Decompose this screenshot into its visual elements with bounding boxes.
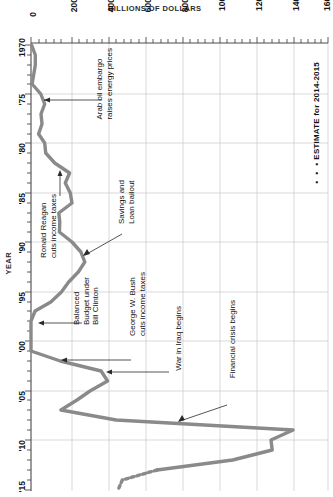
- estimate-note: ▪▪▪ESTIMATE for 2014-2015: [303, 62, 330, 197]
- annotation-balanced-budget: Balanced Budget under Bill Clinton: [72, 277, 101, 325]
- annotation-reagan-tax-cuts: Ronald Reagan cuts income taxes: [39, 194, 58, 258]
- annotation-sl-bailout: Savings and Loan bailout: [117, 180, 136, 224]
- deficit-line-estimate: [118, 470, 157, 490]
- chart-figure: BILLIONS OF DOLLARS YEAR 0 200 400 600 8…: [0, 0, 333, 497]
- annotation-iraq-war: War in Iraq begins: [174, 306, 184, 371]
- annotation-arab-oil-embargo: Arab oil embargo raises energy prices: [95, 48, 114, 120]
- estimate-marker: ▪▪▪: [312, 160, 321, 188]
- estimate-note-text: ESTIMATE for 2014-2015: [312, 62, 321, 160]
- annotation-financial-crisis: Financial crisis begins: [228, 300, 238, 378]
- annotation-leaders: [38, 98, 227, 423]
- year-axis-ticks: [25, 45, 31, 490]
- annotation-bush-tax-cuts: George W. Bush cuts income taxes: [128, 272, 147, 336]
- value-axis-ticks: [31, 37, 328, 43]
- deficit-line: [31, 45, 293, 470]
